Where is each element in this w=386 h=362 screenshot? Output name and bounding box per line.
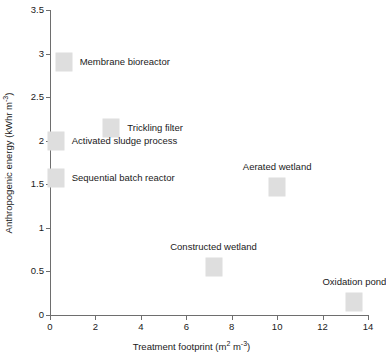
y-tick-label: 2.5 bbox=[14, 92, 44, 102]
x-tick-label: 10 bbox=[272, 322, 283, 332]
data-point-label: Membrane bioreactor bbox=[80, 58, 170, 68]
y-tick-label: 2 bbox=[14, 136, 44, 146]
x-axis-label-end: ) bbox=[247, 341, 250, 352]
x-tick-mark bbox=[368, 316, 369, 320]
x-tick-label: 14 bbox=[363, 322, 374, 332]
y-tick-label: 0.5 bbox=[14, 267, 44, 277]
x-axis-label-base: Treatment footprint (m bbox=[133, 341, 227, 352]
x-tick-mark bbox=[141, 316, 142, 320]
data-point-label: Trickling filter bbox=[127, 123, 183, 133]
y-tick-mark bbox=[46, 97, 50, 98]
data-point-marker[interactable] bbox=[205, 258, 222, 277]
data-point-marker[interactable] bbox=[55, 53, 72, 72]
x-tick-mark bbox=[277, 316, 278, 320]
x-tick-mark bbox=[95, 316, 96, 320]
x-axis-line bbox=[50, 315, 369, 316]
x-axis-label-mid: m bbox=[230, 341, 241, 352]
y-tick-mark bbox=[46, 54, 50, 55]
y-tick-mark bbox=[46, 271, 50, 272]
data-point-label: Constructed wetland bbox=[170, 242, 257, 252]
data-point-label: Oxidation pond bbox=[322, 276, 386, 286]
y-tick-label: 1.5 bbox=[14, 180, 44, 190]
y-axis-label-exponent: -3 bbox=[2, 95, 9, 101]
x-tick-label: 4 bbox=[138, 322, 143, 332]
data-point-label: Sequential batch reactor bbox=[72, 173, 175, 183]
x-tick-mark bbox=[323, 316, 324, 320]
y-tick-label: 1 bbox=[14, 223, 44, 233]
data-point-marker[interactable] bbox=[269, 177, 286, 196]
y-axis-label: Anthropogenic energy (kWhr m-3) bbox=[2, 92, 14, 233]
x-tick-label: 12 bbox=[317, 322, 328, 332]
x-axis-label: Treatment footprint (m2 m-3) bbox=[0, 340, 383, 352]
y-axis-line bbox=[50, 10, 51, 316]
x-tick-label: 6 bbox=[184, 322, 189, 332]
x-tick-label: 0 bbox=[47, 322, 52, 332]
data-point-marker[interactable] bbox=[47, 169, 64, 188]
data-point-marker[interactable] bbox=[346, 292, 363, 311]
y-axis-label-end: ) bbox=[3, 92, 14, 95]
x-tick-mark bbox=[186, 316, 187, 320]
y-tick-label: 0 bbox=[14, 310, 44, 320]
x-tick-mark bbox=[50, 316, 51, 320]
data-point-marker[interactable] bbox=[47, 131, 64, 150]
data-point-label: Aerated wetland bbox=[243, 161, 312, 171]
y-tick-mark bbox=[46, 228, 50, 229]
x-tick-label: 8 bbox=[229, 322, 234, 332]
x-tick-mark bbox=[232, 316, 233, 320]
y-tick-mark bbox=[46, 10, 50, 11]
x-tick-label: 2 bbox=[93, 322, 98, 332]
y-tick-label: 3 bbox=[14, 49, 44, 59]
data-point-label: Activated sludge process bbox=[72, 136, 178, 146]
y-tick-label: 3.5 bbox=[14, 5, 44, 15]
y-axis-label-base: Anthropogenic energy (kWhr m bbox=[3, 101, 14, 232]
